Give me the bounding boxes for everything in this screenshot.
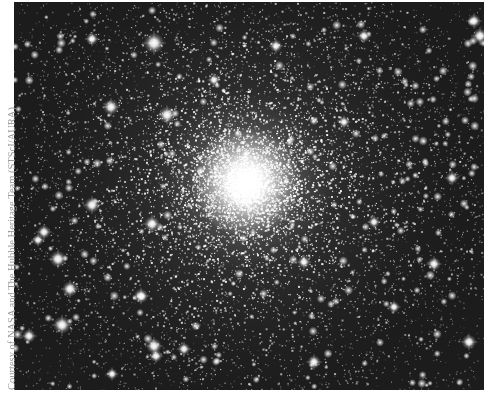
- photo-credit: Courtesy of NASA and The Hubble Heritage…: [6, 90, 18, 390]
- star-cluster-photo: [14, 2, 484, 390]
- starfield-canvas: [14, 2, 484, 390]
- figure: Courtesy of NASA and The Hubble Heritage…: [0, 0, 486, 396]
